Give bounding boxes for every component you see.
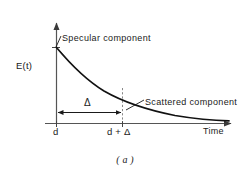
- x-tick-label-d: d: [53, 126, 58, 137]
- specular-leader-tail: [57, 48, 67, 59]
- figure-caption: ( a ): [0, 154, 250, 165]
- x-tick-label-d-plus-delta: d + Δ: [107, 126, 130, 137]
- y-axis-label: E(t): [16, 60, 32, 71]
- scattered-leader-line: [126, 100, 144, 110]
- x-axis-label: Time: [203, 126, 224, 136]
- scattered-component-annotation: Scattered component: [145, 97, 237, 107]
- energy-decay-plot: [0, 0, 250, 176]
- figure-container: E(t) Specular component Scattered compon…: [0, 0, 250, 176]
- decay-curve: [57, 48, 230, 121]
- specular-component-annotation: Specular component: [62, 33, 151, 43]
- delta-interval-label: Δ: [84, 97, 91, 108]
